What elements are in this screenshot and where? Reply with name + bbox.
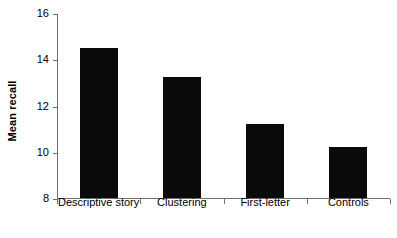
y-axis-title: Mean recall (6, 66, 22, 156)
x-axis-tick (307, 199, 308, 204)
x-axis-tick (140, 199, 141, 204)
y-axis-tick-label: 14 (37, 53, 49, 65)
x-axis-label: Clustering (157, 196, 207, 208)
bar (163, 77, 201, 198)
x-axis-label: Controls (328, 196, 369, 208)
y-axis-tick: 14 (53, 60, 57, 61)
x-axis-label: First-letter (240, 196, 290, 208)
bar-chart: Mean recall 810121416 Descriptive storyC… (0, 0, 397, 238)
plot-area: 810121416 (57, 14, 390, 199)
y-axis-tick: 10 (53, 153, 57, 154)
y-axis-tick-label: 10 (37, 146, 49, 158)
x-axis-tick (390, 199, 391, 204)
bar (246, 124, 284, 198)
bar (329, 147, 367, 198)
y-axis-line (57, 14, 58, 199)
y-axis-tick-label: 8 (43, 192, 49, 204)
y-axis-tick: 12 (53, 107, 57, 108)
y-axis-tick-label: 16 (37, 7, 49, 19)
x-axis-label: Descriptive story (58, 196, 139, 208)
bar (80, 48, 118, 198)
y-axis-tick: 16 (53, 14, 57, 15)
y-axis-tick-label: 12 (37, 100, 49, 112)
x-axis-tick (224, 199, 225, 204)
